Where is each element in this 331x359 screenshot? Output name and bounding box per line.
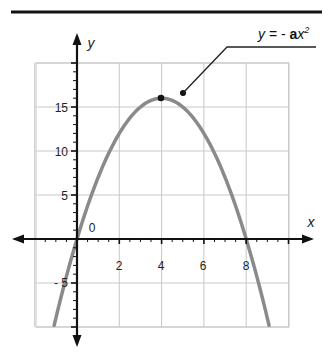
y-axis-label: y [87, 35, 96, 51]
formula-label: y = - ax2 [257, 25, 309, 42]
x-tick-label: 2 [116, 259, 123, 273]
origin-label: 0 [89, 221, 96, 235]
y-axis-down-arrow-icon [73, 335, 82, 347]
formula-callout: y = - ax2 [180, 25, 316, 96]
x-tick-label: 8 [243, 259, 250, 273]
y-tick-label: 15 [55, 101, 69, 115]
x-tick-label: 4 [158, 259, 165, 273]
x-axis-left-arrow-icon [12, 235, 24, 244]
vertex-point [158, 95, 165, 102]
y-tick-label: - 5 [54, 276, 68, 290]
parabola-chart: 2 4 6 8 15 10 5 - 5 0 x y y = - ax2 [0, 0, 331, 359]
axes [12, 33, 314, 347]
x-axis-label: x [307, 214, 316, 230]
x-axis-right-arrow-icon [302, 235, 314, 244]
y-tick-label: 10 [55, 145, 69, 159]
y-tick-label: 5 [61, 189, 68, 203]
y-axis-up-arrow-icon [73, 33, 82, 45]
x-tick-label: 6 [200, 259, 207, 273]
x-tick-labels: 2 4 6 8 [116, 259, 250, 273]
callout-leader-line [183, 47, 316, 93]
